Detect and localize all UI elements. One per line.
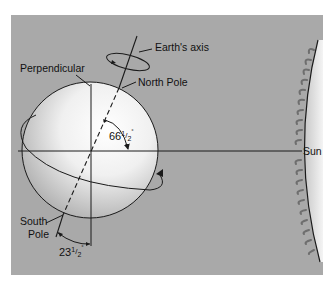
earth-tilt-diagram: Earth's axis Perpendicular North Pole So…	[0, 0, 335, 290]
label-perpendicular: Perpendicular	[20, 62, 85, 74]
earth-globe	[22, 82, 158, 218]
label-earths-axis: Earth's axis	[155, 41, 209, 53]
label-south-pole-1: South	[20, 215, 48, 227]
label-sun: Sun	[303, 145, 322, 157]
label-south-pole-2: Pole	[28, 228, 49, 240]
label-north-pole: North Pole	[138, 76, 188, 88]
